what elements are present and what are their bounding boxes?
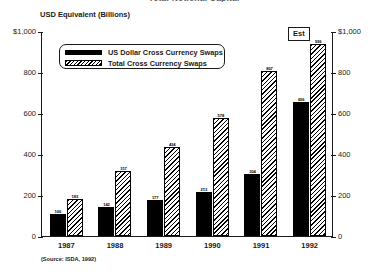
bar-value-label: 656 [298,97,305,102]
legend-item-usd: US Dollar Cross Currency Swaps [65,48,219,58]
y-axis-label-right-200: 200 [338,192,351,200]
bar-1990-total: 578 [213,118,229,236]
legend-label-usd: US Dollar Cross Currency Swaps [108,48,223,57]
x-axis-label-1988: 1988 [107,241,124,250]
y-tick-left-0 [38,237,43,238]
legend-swatch-solid-icon [65,50,102,56]
y-axis-label-right-1000: $1,000 [338,28,361,36]
bar-1991-total: 807 [261,71,277,236]
bar-value-label: 213 [201,187,208,192]
y-axis-label-left-600: 600 [23,110,36,118]
bar-value-label: 106 [55,209,62,214]
bar-1988-total: 317 [115,171,131,236]
bar-1989-usd: 177 [147,200,163,236]
source-note: (Source: ISDA, 1992) [41,256,96,262]
y-axis-caption: USD Equivalent (Billions) [40,10,130,19]
legend-label-total: Total Cross Currency Swaps [108,59,207,68]
bar-value-label: 183 [72,194,79,199]
est-badge: Est [288,27,310,41]
bar-value-label: 434 [169,142,176,147]
bar-1992-total: 936 [310,44,326,236]
y-tick-right-0 [331,237,336,238]
bar-group-1992: 6569361992 [285,32,334,236]
x-axis-label-1992: 1992 [301,241,318,250]
bar-value-label: 177 [152,195,159,200]
chart-title: Total Notional Capital [0,0,388,2]
y-axis-label-right-800: 800 [338,69,351,77]
bar-value-label: 936 [315,39,322,44]
bar-1987-usd: 106 [50,214,66,236]
y-axis-label-left-800: 800 [23,69,36,77]
bar-1989-total: 434 [164,147,180,236]
y-axis-label-right-600: 600 [338,110,351,118]
y-axis-label-left-1000: $1,000 [13,28,36,36]
y-axis-label-left-200: 200 [23,192,36,200]
bar-value-label: 304 [249,169,256,174]
x-axis-label-1991: 1991 [253,241,270,250]
legend-swatch-hatched-icon [65,60,102,66]
y-axis-label-right-0: 0 [338,233,342,241]
bar-group-1991: 3048071991 [237,32,286,236]
bar-value-label: 578 [218,113,225,118]
y-axis-label-left-400: 400 [23,151,36,159]
bar-1992-usd: 656 [293,102,309,236]
bar-value-label: 807 [266,66,273,71]
bar-1987-total: 183 [67,199,83,237]
bar-value-label: 142 [103,202,110,207]
y-axis-label-right-400: 400 [338,151,351,159]
x-axis-label-1987: 1987 [58,241,75,250]
bar-1990-usd: 213 [196,192,212,236]
bar-1991-usd: 304 [244,174,260,236]
y-axis-label-left-0: 0 [32,233,36,241]
chart-figure: Total Notional Capital USD Equivalent (B… [0,0,388,278]
chart-legend: US Dollar Cross Currency Swaps Total Cro… [59,44,225,69]
legend-item-total: Total Cross Currency Swaps [65,58,219,68]
bar-1988-usd: 142 [98,207,114,236]
x-axis-label-1990: 1990 [204,241,221,250]
x-axis-label-1989: 1989 [155,241,172,250]
bar-value-label: 317 [120,166,127,171]
